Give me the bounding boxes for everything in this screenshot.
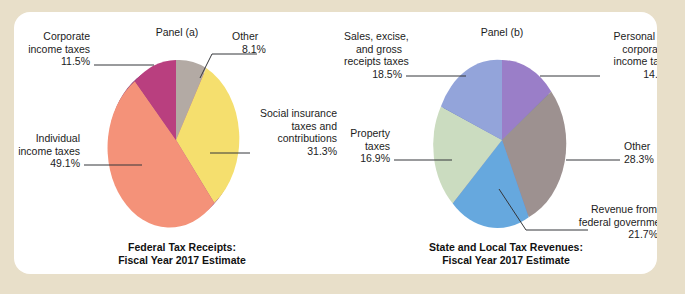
label-other-b: Other 28.3%	[624, 140, 657, 165]
pie-a-slices	[108, 60, 240, 228]
social-line1: Social insurance	[232, 107, 337, 120]
panel-a-tag: Panel (a)	[142, 26, 212, 38]
individual-line1: Individual	[14, 132, 80, 145]
pie-b-slices	[433, 60, 566, 228]
other-b-pct: 28.3%	[624, 153, 657, 166]
corporate-pct: 11.5%	[14, 55, 90, 68]
sales-pct: 18.5%	[344, 68, 402, 81]
label-personal-corporate-b: Personal and corporate income taxes 14.6…	[602, 30, 657, 80]
individual-pct: 49.1%	[14, 157, 80, 170]
panel-b-caption: State and Local Tax Revenues: Fiscal Yea…	[406, 241, 606, 267]
panel-b-caption-line1: State and Local Tax Revenues:	[406, 241, 606, 254]
panel-a: Panel (a) Corporate income taxes 11.5% O…	[14, 12, 357, 274]
personal-line2: corporate	[602, 43, 657, 56]
property-line2: taxes	[344, 140, 390, 153]
panel-b-caption-line2: Fiscal Year 2017 Estimate	[406, 254, 606, 267]
label-individual-income-a: Individual income taxes 49.1%	[14, 132, 80, 170]
property-pct: 16.9%	[344, 152, 390, 165]
label-property-taxes-b: Property taxes 16.9%	[344, 127, 390, 165]
personal-pct: 14.6%	[602, 68, 657, 81]
other-line1: Other	[232, 30, 312, 43]
figure-card: Panel (a) Corporate income taxes 11.5% O…	[14, 12, 657, 274]
panel-b: Panel (b) Sales, excise, and gross recei…	[344, 12, 657, 274]
other-pct: 8.1%	[232, 43, 312, 56]
panel-a-caption-line2: Fiscal Year 2017 Estimate	[92, 254, 272, 267]
personal-line1: Personal and	[602, 30, 657, 43]
revenue-line2: federal government	[566, 216, 657, 229]
panel-a-caption-line1: Federal Tax Receipts:	[92, 241, 272, 254]
label-corporate-income-taxes-a: Corporate income taxes 11.5%	[14, 30, 90, 68]
label-other-a: Other 8.1%	[232, 30, 312, 55]
property-line1: Property	[344, 127, 390, 140]
sales-line2: and gross	[344, 43, 402, 56]
individual-line2: income taxes	[14, 145, 80, 158]
panel-a-caption: Federal Tax Receipts: Fiscal Year 2017 E…	[92, 241, 272, 267]
social-line3: contributions	[232, 132, 337, 145]
revenue-line1: Revenue from	[566, 203, 657, 216]
label-sales-excise-b: Sales, excise, and gross receipts taxes …	[344, 30, 402, 80]
label-federal-revenue-b: Revenue from federal government 21.7%	[566, 203, 657, 241]
sales-line3: receipts taxes	[344, 55, 402, 68]
social-pct: 31.3%	[232, 145, 337, 158]
panel-b-tag: Panel (b)	[467, 26, 537, 38]
label-social-insurance-a: Social insurance taxes and contributions…	[232, 107, 337, 157]
other-b-line1: Other	[624, 140, 657, 153]
corporate-line2: income taxes	[14, 43, 90, 56]
corporate-line1: Corporate	[14, 30, 90, 43]
revenue-pct: 21.7%	[566, 228, 657, 241]
social-line2: taxes and	[232, 120, 337, 133]
personal-line3: income taxes	[602, 55, 657, 68]
sales-line1: Sales, excise,	[344, 30, 402, 43]
